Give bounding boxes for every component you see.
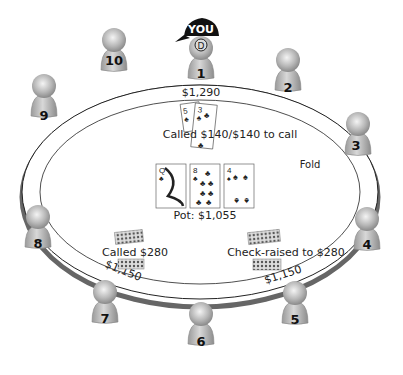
seat-9: 9: [31, 74, 57, 123]
svg-text:8: 8: [193, 166, 198, 175]
svg-text:♣: ♣: [200, 179, 206, 188]
svg-text:♣: ♣: [198, 141, 204, 150]
svg-text:♣: ♣: [200, 189, 206, 198]
svg-text:10: 10: [105, 53, 123, 68]
svg-text:4: 4: [227, 166, 232, 175]
svg-text:♠: ♠: [233, 172, 238, 182]
board-cards: Q ♣ 8 ♣ ♣ ♣ ♣ ♣ ♣ ♣ ♣ 4 ♠ ♠ ♠ ♠ ♠: [156, 164, 254, 208]
seat-7: 7: [92, 280, 118, 326]
svg-text:♠: ♠: [227, 175, 231, 182]
svg-text:♠: ♠: [234, 196, 239, 206]
pot-label: Pot: $1,055: [174, 209, 237, 222]
seat-5-action: Check-raised to $280: [227, 246, 345, 259]
svg-text:♣: ♣: [205, 169, 211, 178]
svg-text:♣: ♣: [196, 198, 202, 207]
svg-text:D: D: [198, 41, 205, 51]
seat-1-hero: 1 YOU D: [175, 18, 219, 81]
svg-text:1: 1: [196, 66, 205, 81]
svg-text:♣: ♣: [208, 179, 214, 188]
seat-6: 6: [188, 302, 214, 349]
hero-action-label: Called $140/$140 to call: [163, 128, 297, 141]
svg-text:2: 2: [283, 80, 292, 95]
svg-text:♣: ♣: [206, 198, 212, 207]
svg-text:♣: ♣: [193, 175, 198, 182]
svg-text:♣: ♣: [159, 175, 164, 182]
svg-text:3: 3: [351, 138, 360, 153]
svg-text:4: 4: [362, 237, 371, 252]
svg-text:7: 7: [100, 311, 109, 326]
seat-7-action: Called $280: [102, 246, 168, 259]
stack-seat-1: $1,290: [182, 86, 221, 99]
you-badge: YOU: [187, 23, 214, 36]
svg-text:6: 6: [196, 334, 205, 349]
svg-text:♣: ♣: [204, 111, 210, 120]
svg-text:9: 9: [39, 108, 48, 123]
poker-table-diagram: 10 9 8 7 6 5 4 3 2 1 YOU D: [0, 0, 403, 375]
svg-text:♣: ♣: [208, 189, 214, 198]
svg-text:♠: ♠: [244, 196, 249, 206]
svg-text:8: 8: [33, 236, 42, 251]
seat-3-action: Fold: [300, 159, 321, 170]
svg-text:Q: Q: [159, 166, 165, 175]
svg-text:5: 5: [290, 312, 299, 327]
seat-5: 5: [282, 281, 308, 327]
seat-10: 10: [101, 28, 127, 72]
seat-2: 2: [275, 48, 301, 95]
svg-text:♠: ♠: [243, 172, 248, 182]
